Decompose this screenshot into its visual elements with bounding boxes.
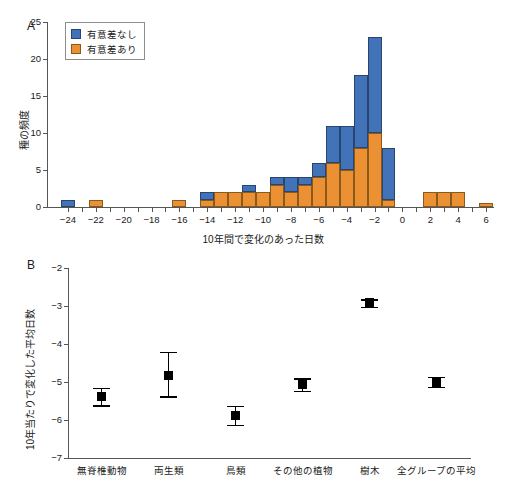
histogram-bar-segment-significant: [451, 192, 465, 207]
error-bar-cap-lower: [294, 391, 311, 392]
histogram-bar: [270, 177, 284, 207]
panel-a-x-axis-line: [47, 207, 494, 208]
error-bar-point: [269, 268, 336, 458]
histogram-bar: [437, 192, 451, 207]
panel-a-x-tick: [291, 208, 292, 212]
panel-b-y-tick: [64, 458, 68, 459]
legend-label-sig: 有意差あり: [87, 42, 137, 56]
panel-a-y-tick-label: 15: [13, 91, 41, 101]
histogram-bar: [242, 185, 256, 207]
histogram-bar-segment-significant: [270, 185, 284, 207]
histogram-bar-segment-significant: [298, 185, 312, 207]
histogram-bar-segment-not-significant: [270, 177, 284, 184]
histogram-bar: [61, 200, 75, 207]
panel-a-x-tick: [486, 208, 487, 212]
error-bar-point: [403, 268, 470, 458]
panel-a-x-tick: [361, 208, 362, 212]
panel-a-y-tick-label: 20: [13, 54, 41, 64]
panel-b-errorbar-plot: B 10年当たりで変化した平均日数 −2−3−4−5−6−7 無脊椎動物両生類鳥…: [0, 250, 526, 487]
data-point-marker: [298, 380, 307, 389]
panel-b-y-tick-label: −7: [34, 453, 62, 463]
histogram-bar-segment-significant: [340, 170, 354, 207]
panel-b-y-tick-label: −6: [34, 415, 62, 425]
panel-a-x-tick: [82, 208, 83, 212]
panel-a-x-tick: [402, 208, 403, 212]
legend-label-nosig: 有意差なし: [87, 27, 137, 41]
panel-a-y-tick-label: 0: [13, 202, 41, 212]
histogram-bar: [214, 192, 228, 207]
histogram-bar: [354, 75, 368, 207]
histogram-bar: [172, 200, 186, 207]
panel-a-x-tick: [375, 208, 376, 212]
histogram-bar: [89, 200, 103, 207]
panel-a-x-tick: [458, 208, 459, 212]
histogram-bar: [200, 192, 214, 207]
data-point-marker: [432, 378, 441, 387]
panel-a-x-tick: [472, 208, 473, 212]
panel-a-x-tick: [124, 208, 125, 212]
error-bar-cap-lower: [93, 405, 110, 406]
panel-a-legend: 有意差なし 有意差あり: [65, 22, 145, 60]
panel-b-plot-area: [68, 268, 470, 458]
panel-a-x-tick: [179, 208, 180, 212]
histogram-bar-segment-significant: [242, 192, 256, 207]
histogram-bar-segment-significant: [479, 203, 493, 207]
error-bar-cap-upper: [93, 388, 110, 389]
histogram-bar: [479, 203, 493, 207]
histogram-bar-segment-significant: [172, 200, 186, 207]
panel-a-x-tick: [319, 208, 320, 212]
panel-a-x-tick: [221, 208, 222, 212]
panel-a-x-tick: [430, 208, 431, 212]
histogram-bar-segment-significant: [382, 200, 396, 207]
panel-a-x-tick-label: 6: [470, 215, 502, 225]
panel-a-x-axis-title: 10年間で変化のあった日数: [0, 231, 526, 246]
panel-a-x-tick: [96, 208, 97, 212]
histogram-bar: [284, 177, 298, 207]
panel-b-y-tick-label: −3: [34, 301, 62, 311]
panel-a-x-tick: [333, 208, 334, 212]
panel-a-x-tick: [207, 208, 208, 212]
panel-a-x-tick: [249, 208, 250, 212]
panel-a-x-tick: [388, 208, 389, 212]
histogram-bar-segment-not-significant: [61, 200, 75, 207]
histogram-bar-segment-not-significant: [382, 148, 396, 200]
panel-a-x-tick: [165, 208, 166, 212]
panel-a-x-tick: [235, 208, 236, 212]
legend-item-sig: 有意差あり: [71, 42, 137, 55]
legend-item-nosig: 有意差なし: [71, 27, 137, 40]
histogram-bar-segment-not-significant: [326, 126, 340, 163]
panel-b-y-tick-label: −2: [34, 263, 62, 273]
histogram-bar-segment-significant: [200, 200, 214, 207]
histogram-bar: [382, 148, 396, 207]
data-point-marker: [231, 411, 240, 420]
histogram-bar-segment-not-significant: [242, 185, 256, 192]
panel-a-x-tick: [416, 208, 417, 212]
panel-a-y-tick-label: 5: [13, 165, 41, 175]
histogram-bar-segment-not-significant: [200, 192, 214, 199]
histogram-bar-segment-significant: [256, 192, 270, 207]
histogram-bar-segment-significant: [354, 148, 368, 207]
histogram-bar: [368, 37, 382, 207]
data-point-marker: [365, 298, 374, 307]
histogram-bar-segment-not-significant: [340, 126, 354, 170]
panel-a-x-tick: [138, 208, 139, 212]
histogram-bar-segment-significant: [368, 133, 382, 207]
panel-a-x-tick: [68, 208, 69, 212]
histogram-bar-segment-significant: [437, 192, 451, 207]
panel-a-y-tick: [43, 207, 47, 208]
panel-a-x-tick: [305, 208, 306, 212]
histogram-bar-segment-not-significant: [354, 75, 368, 148]
panel-a-x-tick: [263, 208, 264, 212]
histogram-bar: [340, 126, 354, 207]
panel-a-x-tick: [152, 208, 153, 212]
histogram-bar-segment-significant: [326, 163, 340, 207]
error-bar-cap-lower: [160, 396, 177, 397]
histogram-bar: [256, 192, 270, 207]
panel-a-x-tick: [193, 208, 194, 212]
histogram-bar-segment-significant: [423, 192, 437, 207]
histogram-bar-segment-not-significant: [312, 163, 326, 178]
panel-a-x-tick: [347, 208, 348, 212]
panel-a-x-tick: [110, 208, 111, 212]
histogram-bar-segment-not-significant: [284, 177, 298, 192]
panel-a-histogram: A 種の頻度 10年間で変化のあった日数 0510152025 −24−22−2…: [0, 0, 526, 250]
